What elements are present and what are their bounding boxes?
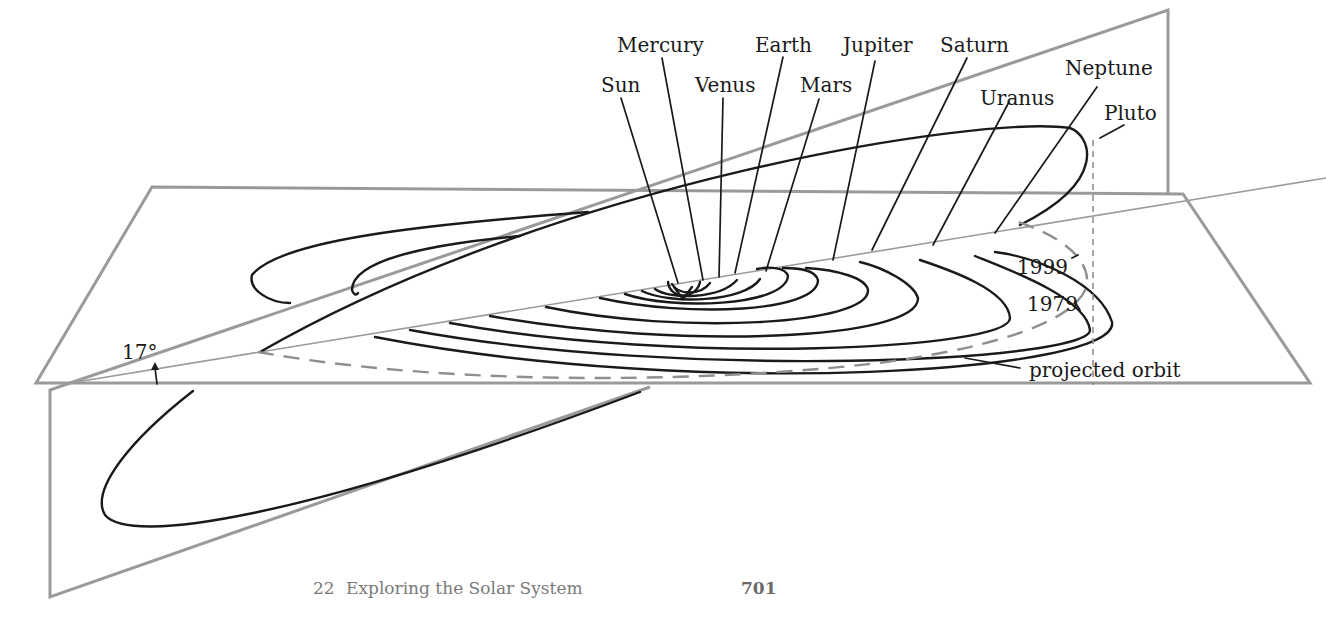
year-1979-label: 1979 [1027,292,1078,316]
pluto-near-orbit [375,252,1112,373]
saturn-leader [872,58,967,250]
label-neptune: Neptune [1065,56,1153,80]
venus-leader [719,98,723,277]
inclination-angle-label: 17° [122,340,157,364]
label-jupiter: Jupiter [841,33,913,57]
label-saturn: Saturn [940,33,1009,57]
uranus-leader [933,102,1009,245]
solar-system-orbit-diagram: Sun Mercury Venus Earth Mars Jupiter Sat… [0,0,1326,636]
projected-orbit [258,222,1087,378]
projected-orbit-label: projected orbit [1029,358,1181,382]
label-mercury: Mercury [617,33,705,57]
page-number: 701 [741,578,777,598]
pluto-orbit-lower [102,391,640,526]
label-uranus: Uranus [980,86,1054,110]
mars-leader [766,99,819,271]
pluto-orbital-plane-upper [70,10,1168,383]
annotations: 17° 1999 1979 projected orbit [122,255,1181,382]
planet-labels: Sun Mercury Venus Earth Mars Jupiter Sat… [601,33,1157,125]
inclination-angle-marker [151,362,159,384]
saturn-orbit [546,268,868,323]
label-earth: Earth [755,33,812,57]
label-venus: Venus [694,73,755,97]
label-sun: Sun [601,73,641,97]
pluto-leader [1100,125,1124,138]
chapter-title: Exploring the Solar System [346,578,583,598]
year-1999-label: 1999 [1017,255,1068,279]
chapter-number: 22 [313,578,335,598]
label-pluto: Pluto [1104,101,1157,125]
pluto-orbit-upper [260,126,1087,352]
planet-orbits [375,252,1112,373]
label-mars: Mars [800,73,852,97]
